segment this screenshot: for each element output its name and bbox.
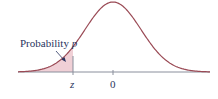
normal-curve-figure: Probability p z 0 (0, 0, 218, 99)
zero-axis-label: 0 (110, 79, 116, 90)
z-axis-label: z (70, 79, 74, 90)
probability-annotation: Probability p (20, 38, 77, 49)
probability-text: Probability (20, 37, 72, 49)
probability-variable: p (72, 37, 78, 49)
